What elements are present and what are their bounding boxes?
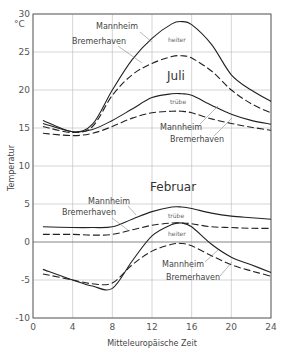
series-line	[43, 243, 271, 285]
annotation-juli-truebe-bremerhaven: Bremerhaven	[170, 135, 224, 144]
y-tick-label: 10	[19, 161, 31, 171]
y-unit-label: °C	[14, 19, 25, 29]
y-tick-label: 15	[19, 123, 30, 133]
annotation-februar: Februar	[150, 180, 196, 194]
annotation-feb-heiter-mannheim: Mannheim	[162, 260, 204, 269]
x-tick-label: 16	[186, 322, 198, 332]
y-tick-label: 25	[19, 47, 30, 57]
x-tick-label: 24	[265, 322, 277, 332]
x-tick-label: 0	[30, 322, 36, 332]
x-tick-label: 12	[146, 322, 157, 332]
grid	[33, 14, 271, 318]
y-tick-label: -5	[21, 275, 30, 285]
annotation-feb-truebe-bremerhaven: Bremerhaven	[62, 208, 116, 217]
annotation-feb-truebe-mannheim: Mannheim	[88, 197, 130, 206]
annotation-juli-bremerhaven: Bremerhaven	[72, 37, 126, 46]
annotation-feb-heiter: heiter	[168, 230, 186, 237]
y-tick-label: 30	[19, 9, 31, 19]
y-tick-label: 20	[19, 85, 31, 95]
annotation-juli: Juli	[166, 69, 185, 83]
annotation-juli-mannheim: Mannheim	[96, 22, 138, 31]
annotation-juli-truebe: trübe	[170, 98, 186, 105]
x-tick-label: 20	[226, 322, 238, 332]
series-line	[43, 56, 271, 133]
data-lines	[43, 22, 271, 290]
temperature-chart: 04812162024-10-5051015202530 °C Temperat…	[0, 0, 282, 354]
y-tick-label: 0	[24, 237, 30, 247]
series-line	[43, 93, 271, 132]
y-tick-label: 5	[24, 199, 30, 209]
x-tick-label: 4	[70, 322, 76, 332]
annotation-feb-heiter-bremerhaven: Bremerhaven	[166, 273, 220, 282]
x-tick-label: 8	[109, 322, 115, 332]
x-axis-label: Mitteleuropäische Zeit	[107, 339, 197, 348]
axis-ticks: 04812162024-10-5051015202530	[15, 9, 277, 332]
annotation-feb-truebe: trübe	[168, 212, 184, 219]
annotation-juli-truebe-mannheim: Mannheim	[160, 123, 202, 132]
annotation-juli-heiter: heiter	[168, 36, 186, 43]
y-axis-label: Temperatur	[7, 144, 16, 192]
series-line	[43, 223, 271, 235]
y-tick-label: -10	[15, 313, 30, 323]
